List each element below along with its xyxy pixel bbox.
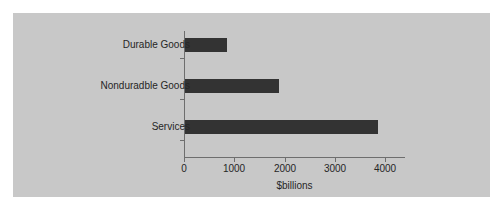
value-tick-3000 bbox=[335, 158, 336, 162]
value-tick-4000 bbox=[385, 158, 386, 162]
category-tick-durable-goods bbox=[180, 58, 184, 59]
bar-nonduradble-goods[interactable] bbox=[185, 79, 279, 93]
bar-chart-figure: Durable Goods Nonduradble Goods Services… bbox=[13, 13, 490, 197]
category-label-services: Services bbox=[30, 120, 190, 134]
category-label-durable-goods: Durable Goods bbox=[30, 38, 190, 52]
value-tick-label-1000: 1000 bbox=[214, 163, 254, 174]
value-tick-label-3000: 3000 bbox=[315, 163, 355, 174]
value-tick-1000 bbox=[234, 158, 235, 162]
value-axis-title: $billions bbox=[184, 180, 405, 191]
value-tick-label-4000: 4000 bbox=[365, 163, 405, 174]
value-tick-2000 bbox=[285, 158, 286, 162]
value-tick-label-2000: 2000 bbox=[265, 163, 305, 174]
bar-durable-goods[interactable] bbox=[185, 38, 227, 52]
category-label-nonduradble-goods: Nonduradble Goods bbox=[30, 79, 190, 93]
category-axis-line bbox=[184, 157, 405, 158]
value-tick-label-0: 0 bbox=[164, 163, 204, 174]
value-tick-0 bbox=[184, 158, 185, 162]
plot-area: Durable Goods Nonduradble Goods Services… bbox=[13, 13, 490, 197]
category-tick-services bbox=[180, 140, 184, 141]
bar-services[interactable] bbox=[185, 120, 378, 134]
category-tick-nonduradble-goods bbox=[180, 99, 184, 100]
